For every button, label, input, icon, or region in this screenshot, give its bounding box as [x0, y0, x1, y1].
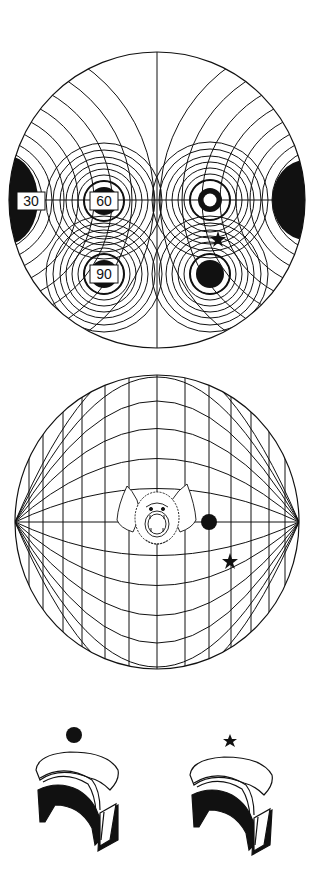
ear-sensor-left — [36, 727, 118, 851]
dot-marker-globe — [201, 514, 217, 530]
diagram-canvas: 30 60 90 — [0, 0, 317, 880]
label-60: 60 — [90, 192, 118, 210]
dot-marker-top — [196, 260, 224, 288]
svg-text:60: 60 — [96, 193, 112, 209]
label-90: 90 — [90, 265, 118, 283]
label-30: 30 — [17, 192, 45, 210]
right-crescent-fill — [272, 160, 317, 240]
ear-sensor-right — [190, 734, 272, 855]
dot-marker-sensor — [66, 727, 82, 743]
star-marker-sensor — [223, 734, 237, 747]
svg-text:30: 30 — [23, 193, 39, 209]
top-polar-map: 30 60 90 — [0, 36, 317, 364]
globe-grid — [15, 356, 299, 688]
svg-text:90: 90 — [96, 266, 112, 282]
